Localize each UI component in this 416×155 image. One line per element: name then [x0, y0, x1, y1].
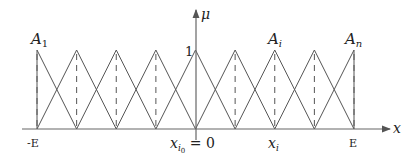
- set-label-a1: A1: [29, 30, 48, 49]
- tick-label-origin: xi0 = 0: [170, 135, 215, 155]
- svg-text:xi: xi: [268, 135, 279, 153]
- svg-text:An: An: [343, 30, 362, 49]
- svg-text:Ai: Ai: [266, 30, 282, 49]
- tick-label-xi: xi: [268, 135, 279, 153]
- set-label-an: An: [343, 30, 362, 49]
- y-axis-label: μ: [201, 6, 210, 22]
- tick-label-e: E: [349, 137, 357, 150]
- peak-value-label: 1: [185, 44, 193, 59]
- set-label-ai: Ai: [266, 30, 282, 49]
- membership-function-diagram: μ x 1 A1 Ai An -E xi0 = 0 xi E: [0, 0, 416, 155]
- svg-text:A1: A1: [29, 30, 48, 49]
- svg-text:xi0 = 0: xi0 = 0: [170, 135, 215, 155]
- x-axis-label: x: [393, 120, 401, 136]
- tick-label-neg-e: -E: [27, 137, 39, 150]
